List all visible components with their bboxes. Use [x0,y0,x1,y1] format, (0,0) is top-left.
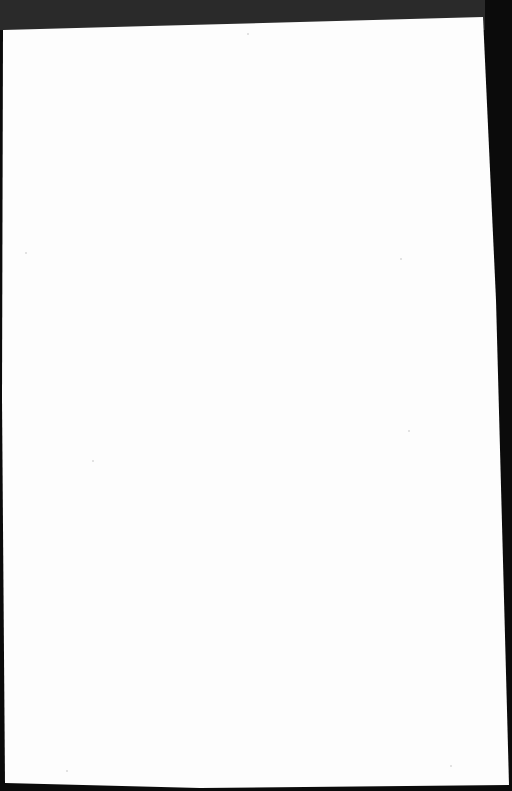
dust-speck [66,770,68,772]
dust-speck [25,252,27,254]
blank-page [0,0,512,791]
dust-speck [450,765,452,767]
page-body [40,60,462,741]
scan-frame [0,0,512,791]
dust-speck [247,33,249,35]
